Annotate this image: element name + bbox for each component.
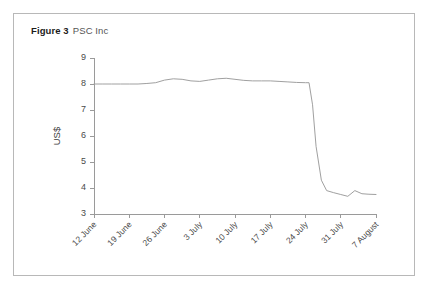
y-tick-label: 8 [81, 78, 86, 88]
data-series [94, 78, 376, 196]
x-tick-label: 12 June [70, 219, 99, 248]
x-tick-label: 24 July [284, 219, 311, 246]
x-axis: 12 June19 June26 June3 July10 July17 Jul… [70, 214, 381, 250]
price-line [94, 78, 376, 196]
figure-frame: Figure 3PSC Inc 3456789 12 June19 June26… [13, 13, 415, 276]
y-tick-label: 3 [81, 208, 86, 218]
x-tick-label: 10 July [213, 219, 240, 246]
x-tick-label: 31 July [319, 219, 346, 246]
plot-area: 3456789 12 June19 June26 June3 July10 Ju… [14, 14, 416, 277]
y-tick-label: 4 [81, 182, 86, 192]
y-tick-label: 7 [81, 104, 86, 114]
x-tick-label: 17 July [249, 219, 276, 246]
x-tick-label: 3 July [181, 219, 204, 242]
x-tick-label: 7 August [350, 219, 381, 250]
y-axis: 3456789 [81, 52, 94, 218]
y-tick-label: 6 [81, 130, 86, 140]
x-tick-label: 26 June [140, 219, 169, 248]
y-axis-title: US$ [51, 126, 62, 145]
line-chart: 3456789 12 June19 June26 June3 July10 Ju… [14, 14, 416, 277]
y-tick-label: 9 [81, 52, 86, 62]
y-tick-label: 5 [81, 156, 86, 166]
x-tick-label: 19 June [105, 219, 134, 248]
